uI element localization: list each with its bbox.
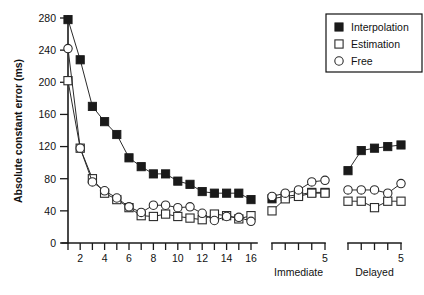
marker-open-square bbox=[186, 214, 194, 222]
y-axis-tick-label: 40 bbox=[44, 205, 56, 217]
marker-open-circle bbox=[247, 217, 255, 225]
marker-filled-square bbox=[64, 16, 72, 24]
marker-open-circle bbox=[397, 179, 405, 187]
marker-open-circle bbox=[137, 208, 145, 216]
marker-filled-square bbox=[186, 180, 194, 188]
marker-open-square bbox=[370, 204, 378, 212]
marker-open-circle bbox=[294, 186, 302, 194]
marker-open-circle bbox=[161, 201, 169, 209]
marker-open-circle bbox=[125, 203, 133, 211]
y-axis-tick-label: 200 bbox=[38, 76, 56, 88]
marker-open-circle bbox=[174, 203, 182, 211]
marker-filled-square bbox=[335, 23, 343, 31]
x-axis-tick-label: 16 bbox=[245, 252, 257, 264]
marker-filled-square bbox=[198, 187, 206, 195]
legend-label: Free bbox=[351, 55, 373, 67]
y-axis-title: Absolute constant error (ms) bbox=[12, 59, 24, 203]
marker-filled-square bbox=[384, 142, 392, 150]
x-axis-tick-label: 2 bbox=[77, 252, 83, 264]
y-axis-tick-label: 0 bbox=[50, 237, 56, 249]
y-axis-tick-label: 280 bbox=[38, 12, 56, 24]
marker-filled-square bbox=[76, 56, 84, 64]
marker-filled-square bbox=[162, 170, 170, 178]
marker-filled-square bbox=[113, 130, 121, 138]
marker-open-square bbox=[308, 189, 316, 197]
y-axis-tick-label: 120 bbox=[38, 140, 56, 152]
marker-open-circle bbox=[268, 192, 276, 200]
marker-open-square bbox=[397, 197, 405, 205]
marker-open-square bbox=[162, 210, 170, 218]
x-axes: 2468101214165Immediate5Delayed bbox=[62, 243, 404, 278]
marker-open-square bbox=[357, 197, 365, 205]
marker-open-circle bbox=[64, 44, 72, 52]
marker-filled-square bbox=[210, 189, 218, 197]
x-axis-tick-label: 8 bbox=[150, 252, 156, 264]
marker-filled-square bbox=[370, 144, 378, 152]
y-axis-tick-label: 80 bbox=[44, 173, 56, 185]
marker-open-circle bbox=[88, 178, 96, 186]
marker-filled-square bbox=[88, 102, 96, 110]
marker-filled-square bbox=[101, 118, 109, 126]
marker-filled-square bbox=[344, 167, 352, 175]
chart-legend: InterpolationEstimationFree bbox=[326, 14, 422, 72]
y-axis-tick-label: 240 bbox=[38, 44, 56, 56]
marker-open-circle bbox=[357, 186, 365, 194]
marker-open-square bbox=[174, 212, 182, 220]
marker-open-square bbox=[64, 77, 72, 85]
x-axis-tick-label: 14 bbox=[221, 252, 233, 264]
marker-open-circle bbox=[76, 144, 84, 152]
line-chart-svg: 04080120160200240280 Absolute constant e… bbox=[0, 0, 424, 295]
marker-open-circle bbox=[308, 178, 316, 186]
marker-open-circle bbox=[198, 209, 206, 217]
x-axis-block-label-delayed: Delayed bbox=[355, 266, 394, 278]
y-axis-title-text: Absolute constant error (ms) bbox=[12, 59, 24, 203]
legend-label: Estimation bbox=[351, 38, 400, 50]
marker-open-circle bbox=[113, 194, 121, 202]
marker-open-circle bbox=[210, 216, 218, 224]
x-axis-tick-label: 5 bbox=[322, 252, 328, 264]
marker-filled-square bbox=[357, 146, 365, 154]
x-axis-tick-label: 5 bbox=[398, 252, 404, 264]
x-axis-block-label-immediate: Immediate bbox=[274, 266, 323, 278]
marker-open-circle bbox=[281, 189, 289, 197]
marker-open-circle bbox=[370, 186, 378, 194]
marker-open-circle bbox=[222, 212, 230, 220]
x-axis-tick-label: 6 bbox=[126, 252, 132, 264]
marker-open-square bbox=[321, 189, 329, 197]
x-axis-tick-label: 10 bbox=[172, 252, 184, 264]
marker-open-circle bbox=[344, 186, 352, 194]
series-line bbox=[68, 81, 251, 220]
marker-filled-square bbox=[137, 163, 145, 171]
marker-filled-square bbox=[149, 170, 157, 178]
legend-label: Interpolation bbox=[351, 21, 409, 33]
marker-open-square bbox=[149, 212, 157, 220]
y-axis-tick-label: 160 bbox=[38, 108, 56, 120]
marker-open-circle bbox=[335, 57, 343, 65]
marker-open-circle bbox=[384, 189, 392, 197]
marker-filled-square bbox=[174, 177, 182, 185]
marker-open-square bbox=[335, 40, 343, 48]
marker-open-square bbox=[268, 207, 276, 215]
marker-open-circle bbox=[149, 201, 157, 209]
marker-filled-square bbox=[223, 189, 231, 197]
marker-open-square bbox=[384, 197, 392, 205]
chart-figure: 04080120160200240280 Absolute constant e… bbox=[0, 0, 424, 295]
marker-open-square bbox=[344, 197, 352, 205]
marker-open-circle bbox=[186, 203, 194, 211]
marker-filled-square bbox=[397, 141, 405, 149]
marker-filled-square bbox=[125, 154, 133, 162]
x-axis-tick-label: 4 bbox=[102, 252, 108, 264]
marker-open-circle bbox=[100, 187, 108, 195]
marker-filled-square bbox=[235, 189, 243, 197]
x-axis-tick-label: 12 bbox=[196, 252, 208, 264]
marker-filled-square bbox=[247, 196, 255, 204]
marker-open-circle bbox=[235, 213, 243, 221]
marker-open-circle bbox=[321, 176, 329, 184]
